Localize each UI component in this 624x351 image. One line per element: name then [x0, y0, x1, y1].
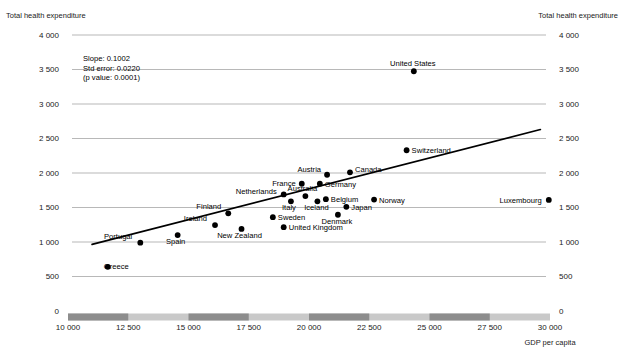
data-point	[324, 172, 330, 178]
x-tick-label: 15 000	[176, 323, 201, 332]
data-point	[546, 197, 552, 203]
data-point-label: Austria	[297, 165, 321, 174]
data-point-label: Japan	[351, 203, 372, 212]
data-point-label: Germany	[325, 180, 356, 189]
x-tick-label: 25 000	[417, 323, 442, 332]
x-tick-label: 20 000	[297, 323, 322, 332]
regression-stats: Slope: 0.1002 Std error: 0.0220 (p value…	[83, 54, 140, 82]
data-point-label: Australia	[288, 184, 318, 193]
y-tick-label: 0	[559, 307, 564, 316]
y-tick-label: 500	[46, 272, 60, 281]
data-point	[404, 147, 410, 153]
x-axis-title: GDP per capita	[524, 338, 576, 347]
data-point-label: Canada	[355, 165, 382, 174]
data-point-label: Italy	[282, 203, 296, 212]
chart-svg: Total health expenditure Total health ex…	[0, 0, 624, 351]
y-axis-title-right: Total health expenditure	[538, 11, 618, 20]
y-axis-ticks-left: 05001 0001 5002 0002 5003 0003 5004 000	[39, 31, 60, 316]
x-tick-label: 17 500	[237, 323, 262, 332]
data-point-label: United States	[390, 59, 436, 68]
x-axis-bar-segment	[430, 314, 490, 321]
x-tick-label: 30 000	[538, 323, 563, 332]
data-point	[270, 214, 276, 220]
data-point	[302, 193, 308, 199]
y-tick-label: 3 500	[39, 65, 60, 74]
y-tick-label: 2 000	[559, 169, 580, 178]
x-tick-label: 12 500	[116, 323, 141, 332]
data-point-label: Finland	[196, 202, 221, 211]
data-point-label: Luxembourg	[500, 196, 542, 205]
y-tick-label: 500	[559, 272, 573, 281]
data-point-label: Greece	[104, 262, 129, 271]
data-point	[323, 196, 329, 202]
y-tick-label: 1 000	[559, 238, 580, 247]
data-point-label: Portugal	[104, 232, 133, 241]
data-point	[137, 240, 143, 246]
y-axis-title-left: Total health expenditure	[6, 11, 86, 20]
y-tick-label: 2 500	[559, 134, 580, 143]
data-point	[411, 68, 417, 74]
y-tick-label: 3 000	[39, 100, 60, 109]
x-tick-label: 22 500	[357, 323, 382, 332]
slope-label: Slope: 0.1002	[83, 54, 130, 63]
x-axis-bar-segment	[189, 314, 249, 321]
data-point-label: Denmark	[322, 217, 353, 226]
data-point-label: Sweden	[278, 213, 305, 222]
std-error-label: Std error: 0.0220	[83, 64, 140, 73]
x-tick-label: 10 000	[56, 323, 81, 332]
y-tick-label: 1 500	[39, 203, 60, 212]
gridlines	[72, 35, 546, 277]
data-point-label: Iceland	[304, 203, 329, 212]
data-points: GreecePortugalSpainIrelandFinlandNew Zea…	[104, 59, 552, 271]
data-point	[317, 181, 323, 187]
data-point-label: Switzerland	[412, 146, 451, 155]
scatter-chart: Total health expenditure Total health ex…	[0, 0, 624, 351]
data-point	[281, 191, 287, 197]
data-point-label: New Zealand	[217, 231, 262, 240]
y-tick-label: 1 000	[39, 238, 60, 247]
data-point	[371, 197, 377, 203]
data-point	[281, 224, 287, 230]
data-point-label: Netherlands	[236, 187, 277, 196]
x-axis-ticks: 10 00012 50015 00017 50020 00022 50025 0…	[56, 323, 563, 332]
y-tick-label: 3 000	[559, 100, 580, 109]
data-point	[225, 210, 231, 216]
y-tick-label: 0	[55, 307, 60, 316]
x-axis-bar-segment	[309, 314, 369, 321]
data-point-label: Spain	[166, 237, 185, 246]
y-tick-label: 2 500	[39, 134, 60, 143]
data-point-label: Norway	[379, 196, 405, 205]
x-axis-bar-segment	[68, 314, 128, 321]
y-tick-label: 3 500	[559, 65, 580, 74]
data-point	[343, 204, 349, 210]
x-axis-bar	[68, 314, 550, 321]
y-tick-label: 4 000	[39, 31, 60, 40]
x-tick-label: 27 500	[478, 323, 503, 332]
data-point	[212, 222, 218, 228]
data-point	[347, 169, 353, 175]
y-tick-label: 2 000	[39, 169, 60, 178]
data-point-label: Ireland	[184, 214, 207, 223]
y-axis-ticks-right: 05001 0001 5002 0002 5003 0003 5004 000	[559, 31, 580, 316]
p-value-label: (p value: 0.0001)	[83, 73, 140, 82]
y-tick-label: 4 000	[559, 31, 580, 40]
y-tick-label: 1 500	[559, 203, 580, 212]
